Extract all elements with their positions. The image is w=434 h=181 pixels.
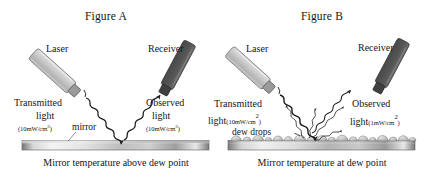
transmitted-ray-a <box>86 98 121 144</box>
dew-point-sensor-figure: Figure A Laser Receiver Transmitted ligh… <box>0 0 434 181</box>
panel-a-graphics <box>22 40 209 150</box>
observed-unit-b-close: ) <box>398 119 400 126</box>
observed-label-a-line2: light <box>152 111 170 122</box>
observed-ray-b <box>312 91 350 133</box>
scatter-ray-up-right <box>313 107 343 137</box>
diagram-canvas <box>0 0 434 181</box>
mirror-bar-b <box>228 141 415 151</box>
transmitted-ray-b <box>280 95 315 140</box>
transmitted-label-b-line2: light <box>208 115 226 126</box>
observed-label-a-line1: Observed <box>146 98 184 109</box>
transmitted-unit-b-text: (10mW/cm <box>226 118 255 125</box>
laser-label-b: Laser <box>246 44 268 55</box>
laser-device-a <box>28 48 82 99</box>
observed-label-b-line1: Observed <box>352 99 390 110</box>
transmitted-label-a-line2: light <box>36 111 54 122</box>
scatter-ray-up-left <box>287 106 304 138</box>
observed-label-b-line2: light <box>350 116 368 127</box>
observed-label-b-line2-group: light(1mW/cm2) <box>350 112 400 129</box>
receiver-label-a: Receiver <box>148 44 184 55</box>
mirror-leader-line <box>68 132 76 141</box>
transmitted-unit-a-text: (10mW/cm <box>18 125 47 132</box>
figure-b-title: Figure B <box>272 10 372 22</box>
figure-a-title: Figure A <box>56 10 156 22</box>
transmitted-label-b-line2-group: light(10mW/cm2) <box>208 111 261 128</box>
transmitted-unit-a-close: ) <box>50 125 52 132</box>
receiver-label-b: Receiver <box>358 43 394 54</box>
observed-unit-a-text: (10mW/cm <box>146 125 175 132</box>
transmitted-label-a-line1: Transmitted <box>14 98 62 109</box>
transmitted-label-b-line1: Transmitted <box>214 99 262 110</box>
mirror-bar-a <box>22 141 209 151</box>
laser-label-a: Laser <box>46 44 68 55</box>
caption-a: Mirror temperature above dew point <box>26 158 206 169</box>
observed-unit-a: (10mW/cm2) <box>146 124 180 133</box>
caption-b: Mirror temperature at dew point <box>232 158 412 169</box>
mirror-note-label: mirror <box>72 123 96 133</box>
dew-drops-note-label: dew drops <box>232 128 271 138</box>
transmitted-unit-a: (10mW/cm2) <box>18 124 52 133</box>
observed-unit-a-close: ) <box>178 125 180 132</box>
transmitted-unit-b-close: ) <box>259 118 261 125</box>
observed-unit-b-text: (1mW/cm <box>368 119 394 126</box>
scatter-ray-up <box>309 109 316 138</box>
